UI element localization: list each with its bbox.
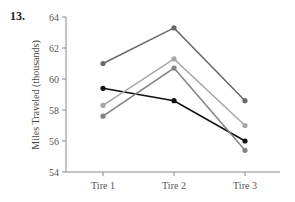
series-polyline [103,28,245,101]
y-axis-title: Miles Traveled (thousands) [30,40,42,149]
data-point-marker [100,103,105,108]
series-line [100,66,247,153]
x-tick-label: Tire 2 [162,180,186,191]
y-tick-label: 58 [49,105,59,116]
data-point-marker [242,98,247,103]
series-polyline [103,88,245,141]
series-line [100,86,247,144]
y-tick-label: 54 [49,167,59,178]
line-chart: 545658606264Tire 1Tire 2Tire 3 Miles Tra… [0,0,295,202]
data-point-marker [171,66,176,71]
data-point-marker [242,138,247,143]
data-point-marker [242,148,247,153]
x-tick-label: Tire 1 [91,180,115,191]
series-polyline [103,68,245,150]
chart-series [100,25,247,153]
y-tick-label: 56 [49,136,59,147]
y-tick-label: 64 [49,12,59,23]
y-tick-label: 62 [49,43,59,54]
data-point-marker [171,98,176,103]
data-point-marker [100,114,105,119]
y-tick-label: 60 [49,74,59,85]
data-point-marker [100,61,105,66]
data-point-marker [171,25,176,30]
x-tick-label: Tire 3 [233,180,257,191]
data-point-marker [242,123,247,128]
data-point-marker [100,86,105,91]
data-point-marker [171,56,176,61]
